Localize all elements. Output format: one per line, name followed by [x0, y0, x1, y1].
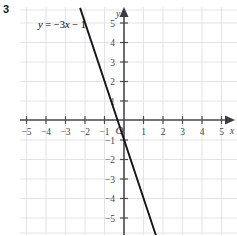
y-tick-label: 4	[110, 38, 115, 48]
x-tick-label: −3	[60, 127, 70, 137]
y-tick-label: 3	[110, 58, 115, 68]
y-tick-label: −2	[105, 155, 115, 165]
x-tick-label: −2	[80, 127, 90, 137]
y-tick-label: 5	[110, 19, 115, 29]
coordinate-plane: −5 −4 −3 −2 −1 1 2 3 4 5 5 4 3 2 1 −1 −2…	[20, 7, 237, 235]
horizontal-grid-lines	[20, 10, 237, 233]
x-tick-label: 2	[161, 127, 166, 137]
y-tick-label: −5	[105, 214, 115, 224]
x-tick-label: −5	[21, 127, 31, 137]
y-tick-labels: 5 4 3 2 1 −1 −2 −3 −4 −5	[105, 19, 115, 224]
x-tick-label: −4	[41, 127, 51, 137]
x-tick-label: 3	[180, 127, 185, 137]
equation-annotation: y = −3x − 1	[38, 19, 86, 30]
problem-number: 3	[3, 4, 9, 15]
x-axis-arrow-icon	[225, 116, 235, 125]
x-tick-label: 4	[200, 127, 205, 137]
x-tick-label: 1	[141, 127, 146, 137]
y-axis	[120, 7, 129, 235]
x-tick-label: 5	[219, 127, 224, 137]
y-tick-label: −1	[105, 136, 115, 146]
y-tick-label: 2	[110, 77, 115, 87]
y-axis-label: y	[115, 9, 121, 19]
y-tick-label: −3	[105, 175, 115, 185]
graph-figure: 3	[0, 0, 237, 236]
function-line	[80, 8, 158, 235]
y-tick-label: −4	[105, 194, 115, 204]
y-axis-arrow-icon	[120, 7, 129, 17]
x-axis-label: x	[229, 126, 235, 136]
x-axis	[20, 116, 235, 125]
graph-svg: −5 −4 −3 −2 −1 1 2 3 4 5 5 4 3 2 1 −1 −2…	[20, 7, 237, 235]
